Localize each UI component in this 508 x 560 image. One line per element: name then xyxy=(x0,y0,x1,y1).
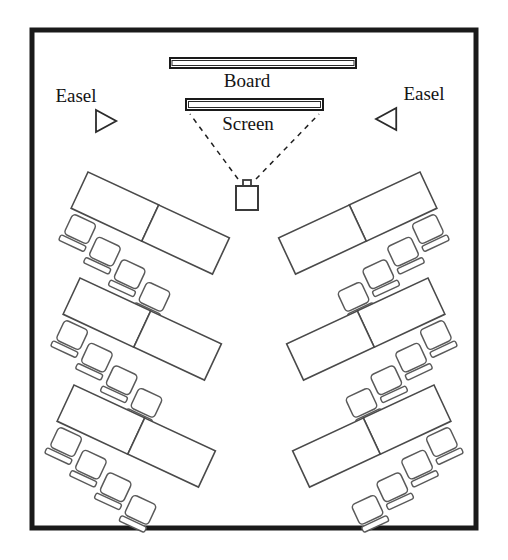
screen-fixture xyxy=(186,99,323,110)
easel-right-label: Easel xyxy=(403,83,444,104)
projector-body xyxy=(236,186,258,210)
board-fixture xyxy=(170,58,356,68)
board-label: Board xyxy=(224,70,271,91)
screen-bar-inner xyxy=(189,102,321,108)
floor-plan-canvas: Board Screen Easel Easel xyxy=(0,0,508,560)
screen-label: Screen xyxy=(222,113,274,134)
classroom-floor-plan: Board Screen Easel Easel xyxy=(0,0,508,560)
board-bar-inner xyxy=(172,61,354,66)
easel-left-label: Easel xyxy=(55,85,96,106)
